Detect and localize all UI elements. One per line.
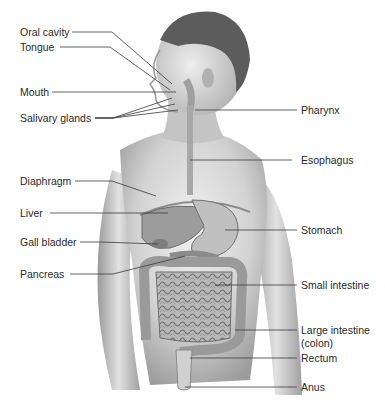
label-tongue: Tongue	[20, 41, 54, 53]
label-pancreas: Pancreas	[20, 268, 64, 280]
label-salivary-glands: Salivary glands	[20, 112, 91, 124]
small-intestine	[156, 272, 232, 342]
ear	[202, 68, 214, 88]
rectum	[176, 350, 192, 390]
label-gall-bladder: Gall bladder	[20, 236, 77, 248]
label-esophagus: Esophagus	[301, 154, 354, 166]
label-stomach: Stomach	[301, 224, 342, 236]
label-large-intestine: Large intestine	[301, 324, 370, 336]
label-rectum: Rectum	[301, 352, 337, 364]
label-colon: (colon)	[301, 337, 333, 349]
label-small-intestine: Small intestine	[301, 279, 369, 291]
label-anus: Anus	[301, 381, 325, 393]
label-mouth: Mouth	[20, 86, 49, 98]
label-diaphragm: Diaphragm	[20, 175, 71, 187]
label-oral-cavity: Oral cavity	[20, 26, 70, 38]
label-pharynx: Pharynx	[301, 104, 340, 116]
label-liver: Liver	[20, 207, 43, 219]
